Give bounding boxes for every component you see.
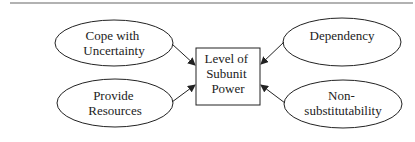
factor-provide-resources: Provide Resources [57,79,173,127]
center-label-line: Power [211,81,245,96]
factor-label-line: Uncertainty [83,43,145,58]
center-label: Level of Subunit Power [205,51,252,96]
factor-label-line: Resources [88,103,141,118]
factor-non-substitutability: Non- substitutability [284,80,402,128]
center-label-line: Level of [205,51,249,66]
factor-cope-with-uncertainty: Cope with Uncertainty [55,20,173,66]
factor-label-line: Cope with [85,28,139,43]
factor-label: Dependency [310,28,375,43]
arrow-cope-to-center [172,44,195,65]
factor-label: Non- substitutability [304,88,382,118]
center-level-of-subunit-power: Level of Subunit Power [196,48,260,105]
subunit-power-diagram: Cope with Uncertainty Provide Resources … [0,0,415,142]
factor-dependency: Dependency [283,18,401,66]
arrow-nonsub-to-center [261,85,285,103]
arrow-provide-to-center [172,85,195,102]
factor-label-line: substitutability [304,103,382,118]
factor-label: Cope with Uncertainty [83,28,145,58]
factor-label-line: Dependency [310,28,375,43]
factor-label-line: Non- [328,88,355,103]
factor-label: Provide Resources [88,88,141,118]
center-label-line: Subunit [206,66,247,81]
factor-label-line: Provide [93,88,134,103]
arrow-dependency-to-center [261,42,284,64]
